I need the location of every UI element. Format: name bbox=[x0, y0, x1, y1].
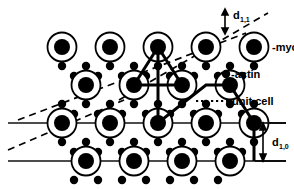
myosin-filament-legend-ref bbox=[240, 33, 269, 62]
actin-legend-dot bbox=[222, 70, 230, 78]
actin-dot bbox=[82, 138, 90, 146]
actin-dot bbox=[82, 100, 90, 108]
myosin-filament bbox=[168, 147, 197, 176]
unit-cell-label: unit cell bbox=[232, 95, 274, 107]
actin-dot bbox=[130, 62, 138, 70]
actin-dot bbox=[142, 176, 150, 184]
myosin-core bbox=[198, 39, 214, 55]
actin-dot bbox=[82, 62, 90, 70]
d11-label: d 1,1 bbox=[233, 9, 250, 24]
actin-dot bbox=[58, 62, 66, 70]
actin-dot bbox=[166, 176, 174, 184]
actin-dot bbox=[178, 138, 186, 146]
actin-dot bbox=[202, 62, 210, 70]
d10-label-base: d bbox=[272, 136, 279, 148]
myosin-core bbox=[198, 115, 214, 131]
d11-arrowhead-up bbox=[222, 9, 228, 15]
myosin-filament bbox=[192, 33, 221, 62]
myosin-filament bbox=[192, 109, 221, 138]
actin-dot bbox=[106, 62, 114, 70]
myosin-core bbox=[102, 115, 118, 131]
actin-label: -actin bbox=[231, 68, 261, 80]
actin-dot bbox=[190, 176, 198, 184]
myosin-filament bbox=[72, 147, 101, 176]
figure-canvas: -myosin -actin unit cell d 1,1 d 1,0 bbox=[0, 0, 294, 190]
myosin-filament bbox=[96, 33, 125, 62]
d11-arrowhead-down bbox=[222, 28, 228, 34]
actin-dot bbox=[70, 176, 78, 184]
d10-label-subscript: 1,0 bbox=[279, 143, 289, 151]
myosin-filament bbox=[216, 147, 245, 176]
actin-dot bbox=[94, 176, 102, 184]
myosin-core bbox=[54, 115, 70, 131]
actin-dot bbox=[118, 176, 126, 184]
myosin-core bbox=[102, 39, 118, 55]
actin-dot bbox=[106, 100, 114, 108]
d10-arrowhead-down bbox=[260, 154, 266, 161]
myosin-filament bbox=[120, 147, 149, 176]
d10-label: d 1,0 bbox=[272, 136, 289, 151]
myosin-core bbox=[246, 39, 262, 55]
myosin-core bbox=[78, 153, 94, 169]
myosin-core bbox=[174, 153, 190, 169]
myosin-filament bbox=[96, 109, 125, 138]
d11-label-subscript: 1,1 bbox=[240, 16, 250, 24]
d11-label-base: d bbox=[233, 9, 240, 21]
myosin-filament bbox=[48, 109, 77, 138]
actin-dot bbox=[58, 138, 66, 146]
myosin-label: -myosin bbox=[272, 41, 294, 53]
lattice-diagram: -myosin -actin unit cell d 1,1 d 1,0 bbox=[0, 0, 294, 190]
legend-actin-marker bbox=[222, 70, 230, 78]
myosin-filament bbox=[48, 33, 77, 62]
d11-measure bbox=[222, 9, 228, 34]
actin-dot bbox=[58, 100, 66, 108]
myosin-core bbox=[78, 77, 94, 93]
actin-dot bbox=[106, 138, 114, 146]
myosin-core bbox=[126, 153, 142, 169]
myosin-core bbox=[222, 153, 238, 169]
myosin-core bbox=[54, 39, 70, 55]
myosin-filament bbox=[72, 71, 101, 100]
actin-dot bbox=[202, 138, 210, 146]
actin-dot bbox=[130, 100, 138, 108]
actin-dot bbox=[214, 176, 222, 184]
actin-dot bbox=[226, 138, 234, 146]
actin-dot bbox=[130, 138, 138, 146]
actin-dot bbox=[178, 62, 186, 70]
actin-dot bbox=[154, 138, 162, 146]
